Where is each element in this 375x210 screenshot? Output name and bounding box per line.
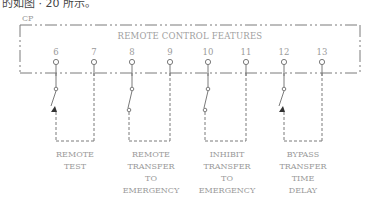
pin-number: 9 xyxy=(167,47,172,57)
feature-remote-transfer-to-emergency: REMOTETRANSFERTOEMERGENCY xyxy=(123,73,180,195)
panel-title: REMOTE CONTROL FEATURES xyxy=(118,31,263,41)
switch-contact xyxy=(54,87,58,91)
terminal-pin-11: 11 xyxy=(241,47,252,76)
pin-number: 10 xyxy=(203,47,214,57)
terminal-icon xyxy=(91,59,96,64)
feature-bypass-transfer-time-delay: BYPASSTRANSFERTIMEDELAY xyxy=(279,73,327,195)
switch-blade xyxy=(204,91,208,108)
terminal-pin-7: 7 xyxy=(91,47,96,76)
feature-label-line: EMERGENCY xyxy=(199,186,256,195)
remote-control-wiring-diagram: CP REMOTE CONTROL FEATURES 678910111213 … xyxy=(0,0,375,210)
terminal-pin-12: 12 xyxy=(279,47,290,76)
terminal-pin-8: 8 xyxy=(129,47,134,76)
switch-contact xyxy=(127,108,131,112)
terminal-pins: 678910111213 xyxy=(53,47,327,76)
terminal-pin-6: 6 xyxy=(53,47,58,76)
switch-contact xyxy=(206,87,210,91)
switch-blade xyxy=(51,91,56,106)
feature-label-line: INHIBIT xyxy=(210,150,245,159)
pin-number: 7 xyxy=(91,47,96,57)
switch-contact xyxy=(130,87,134,91)
terminal-pin-9: 9 xyxy=(167,47,172,76)
pin-number: 12 xyxy=(279,47,290,57)
terminal-icon xyxy=(319,59,324,64)
terminal-icon xyxy=(53,59,58,64)
switch-contact xyxy=(203,108,207,112)
feature-inhibit-transfer-to-emergency: INHIBITTRANSFERTOEMERGENCY xyxy=(199,73,256,195)
switch-arrow-icon xyxy=(279,106,285,112)
terminal-icon xyxy=(281,59,286,64)
switch-contact xyxy=(282,87,286,91)
feature-label-line: BYPASS xyxy=(287,150,319,159)
feature-label-line: TRANSFER xyxy=(127,162,175,171)
pin-number: 8 xyxy=(129,47,134,57)
switch-arrow-icon xyxy=(51,106,57,112)
feature-label-line: TO xyxy=(221,174,233,183)
switch-blade xyxy=(128,91,132,108)
feature-label-line: TRANSFER xyxy=(279,162,327,171)
terminal-icon xyxy=(243,59,248,64)
terminal-pin-13: 13 xyxy=(317,47,328,76)
feature-label-line: REMOTE xyxy=(132,150,170,159)
feature-remote-test: REMOTETEST xyxy=(51,73,94,171)
switch-blade xyxy=(279,91,284,106)
feature-label-line: TIME xyxy=(292,174,315,183)
feature-label-line: TEST xyxy=(64,162,87,171)
terminal-icon xyxy=(205,59,210,64)
feature-label-line: TRANSFER xyxy=(203,162,251,171)
terminal-icon xyxy=(129,59,134,64)
feature-label-line: REMOTE xyxy=(56,150,94,159)
feature-label-line: EMERGENCY xyxy=(123,186,180,195)
pin-number: 11 xyxy=(241,47,252,57)
feature-circuits: REMOTETESTREMOTETRANSFERTOEMERGENCYINHIB… xyxy=(51,73,327,195)
terminal-pin-10: 10 xyxy=(203,47,214,76)
pin-number: 6 xyxy=(53,47,58,57)
feature-label-line: TO xyxy=(145,174,157,183)
pin-number: 13 xyxy=(317,47,328,57)
feature-label-line: DELAY xyxy=(289,186,318,195)
terminal-icon xyxy=(167,59,172,64)
panel-label: CP xyxy=(22,14,34,23)
